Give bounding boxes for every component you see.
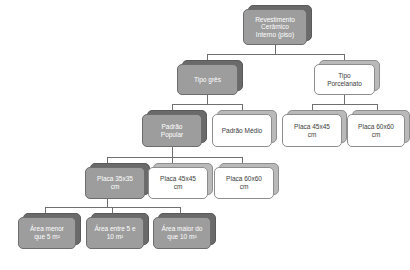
node-popular-placa-60x60[interactable]: Placa 60x60 cm xyxy=(214,167,274,199)
node-padrao-popular[interactable]: Padrão Popular xyxy=(142,114,202,147)
node-label: Revestimento Cerâmico Interno (piso) xyxy=(255,16,295,39)
node-label: Padrão Popular xyxy=(161,123,183,138)
card-face: Tipo Porcelanato xyxy=(314,64,375,95)
connector-gres-stem xyxy=(207,95,208,104)
node-area-entre-5-e-10m2[interactable]: Área entre 5 e 10 m² xyxy=(86,217,144,249)
node-popular-placa-35x35[interactable]: Placa 35x35 cm xyxy=(85,167,145,199)
node-label: Tipo grês xyxy=(194,76,221,84)
hierarchy-diagram: Revestimento Cerâmico Interno (piso) Tip… xyxy=(0,0,410,270)
node-padrao-medio[interactable]: Padrão Médio xyxy=(212,114,272,147)
connector-gres-bar xyxy=(172,104,242,105)
node-popular-placa-45x45[interactable]: Placa 45x45 cm xyxy=(148,167,208,199)
connector-root-stem xyxy=(275,45,276,54)
node-label: Tipo Porcelanato xyxy=(327,72,362,87)
card-face: Placa 60x60 cm xyxy=(214,167,274,199)
connector-popular-bar xyxy=(107,157,242,158)
node-porcelanato-placa-60x60[interactable]: Placa 60x60 cm xyxy=(347,114,405,147)
node-porcelanato-placa-45x45[interactable]: Placa 45x45 cm xyxy=(282,114,342,147)
node-revestimento-ceramico-interno[interactable]: Revestimento Cerâmico Interno (piso) xyxy=(243,9,307,45)
node-label: Área entre 5 e 10 m² xyxy=(94,225,135,240)
node-label: Placa 35x35 cm xyxy=(97,175,133,190)
node-label: Placa 60x60 cm xyxy=(226,175,262,190)
node-tipo-porcelanato[interactable]: Tipo Porcelanato xyxy=(314,64,375,95)
connector-popular-stem xyxy=(172,147,173,157)
node-label: Placa 45x45 cm xyxy=(160,175,196,190)
node-label: Área menor que 5 m² xyxy=(30,225,64,240)
card-face: Placa 35x35 cm xyxy=(85,167,145,199)
card-face: Placa 60x60 cm xyxy=(347,114,405,147)
card-face: Tipo grês xyxy=(177,64,238,95)
node-label: Placa 60x60 cm xyxy=(358,123,394,138)
connector-level2-bar xyxy=(207,54,344,55)
node-tipo-gres[interactable]: Tipo grês xyxy=(177,64,238,95)
node-area-menor-que-5m2[interactable]: Área menor que 5 m² xyxy=(18,217,76,249)
node-label: Padrão Médio xyxy=(222,127,262,135)
card-face: Área maior do que 10 m² xyxy=(153,217,211,249)
card-face: Padrão Popular xyxy=(142,114,202,147)
connector-porcelanato-stem xyxy=(344,95,345,104)
card-face: Área entre 5 e 10 m² xyxy=(86,217,144,249)
node-label: Placa 45x45 cm xyxy=(294,123,330,138)
card-face: Placa 45x45 cm xyxy=(282,114,342,147)
card-face: Revestimento Cerâmico Interno (piso) xyxy=(243,9,307,45)
connector-porcelanato-bar xyxy=(312,104,377,105)
connector-placa35-stem xyxy=(107,199,108,207)
card-face: Área menor que 5 m² xyxy=(18,217,76,249)
card-face: Padrão Médio xyxy=(212,114,272,147)
node-label: Área maior do que 10 m² xyxy=(162,225,203,240)
card-face: Placa 45x45 cm xyxy=(148,167,208,199)
node-area-maior-que-10m2[interactable]: Área maior do que 10 m² xyxy=(153,217,211,249)
